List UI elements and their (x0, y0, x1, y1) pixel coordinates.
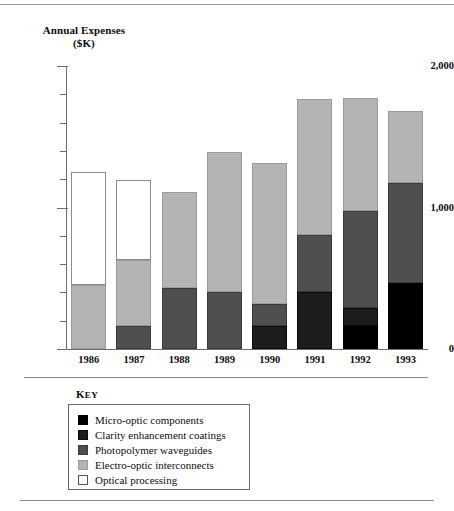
bar-segment (162, 192, 197, 288)
legend-item-label: Electro-optic interconnects (95, 459, 214, 471)
bar-group (66, 66, 428, 349)
bar-segment (71, 172, 106, 285)
legend-item: Clarity enhancement coatings (78, 427, 226, 442)
legend-swatch-clarity (78, 430, 88, 440)
bar-segment (71, 285, 106, 349)
bar-1986 (71, 66, 106, 349)
legend-item: Electro-optic interconnects (78, 457, 214, 472)
legend-swatch-optical (78, 475, 88, 485)
bar-segment (297, 99, 332, 236)
x-axis-line (66, 349, 428, 350)
bar-1993 (388, 66, 423, 349)
bar-segment (207, 152, 242, 293)
legend-item-label: Micro-optic components (95, 414, 203, 426)
bar-1991 (297, 66, 332, 349)
bar-segment (252, 304, 287, 326)
bar-segment (343, 211, 378, 308)
legend-title-rest: EY (85, 390, 98, 400)
bar-segment (388, 111, 423, 183)
bar-segment (116, 180, 151, 260)
bar-1992 (343, 66, 378, 349)
legend-title-first: K (76, 388, 85, 400)
bar-1987 (116, 66, 151, 349)
bar-segment (388, 183, 423, 283)
legend-swatch-micro (78, 415, 88, 425)
bar-segment (343, 98, 378, 211)
bar-1989 (207, 66, 242, 349)
legend-divider-rule (24, 377, 428, 378)
legend-item-label: Clarity enhancement coatings (95, 429, 226, 441)
x-axis-tick-label: 1993 (375, 354, 435, 365)
bar-segment (297, 235, 332, 292)
bar-segment (297, 292, 332, 349)
bar-segment (116, 326, 151, 349)
legend-item: Micro-optic components (78, 412, 203, 427)
bar-1988 (162, 66, 197, 349)
bar-segment (388, 283, 423, 350)
legend-item-label: Optical processing (95, 474, 177, 486)
legend-item-label: Photopolymer waveguides (95, 444, 212, 456)
legend-swatch-photo (78, 445, 88, 455)
legend-box: Micro-optic componentsClarity enhancemen… (68, 404, 250, 490)
legend-title: KEY (76, 388, 98, 400)
bar-segment (343, 326, 378, 349)
plot-area: 01,0002,000 1986198719881989199019911992… (0, 0, 454, 370)
legend-swatch-electro (78, 460, 88, 470)
bar-segment (207, 292, 242, 349)
bar-segment (116, 260, 151, 327)
bar-1990 (252, 66, 287, 349)
bottom-divider-rule (20, 500, 434, 501)
y-axis-major-tick (57, 349, 68, 350)
bar-segment (343, 308, 378, 326)
bar-segment (162, 288, 197, 349)
chart-page: Annual Expenses ($K) 01,0002,000 1986198… (0, 0, 454, 511)
legend-item: Photopolymer waveguides (78, 442, 212, 457)
legend-item: Optical processing (78, 472, 177, 487)
bar-segment (252, 326, 287, 349)
bar-segment (252, 163, 287, 304)
